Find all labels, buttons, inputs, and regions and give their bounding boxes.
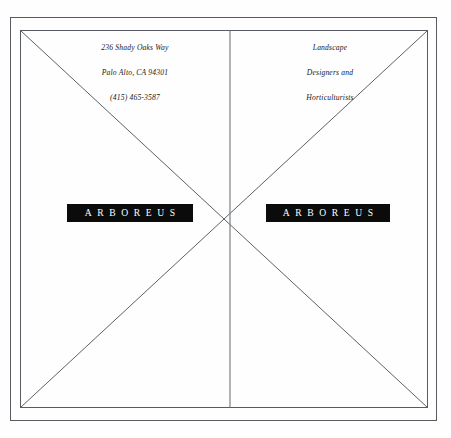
stationery-canvas: 236 Shady Oaks Way Palo Alto, CA 94301 (… xyxy=(0,0,451,438)
logo-wordmark-right: ARBOREUS xyxy=(266,204,390,222)
address-line-phone: (415) 465-3587 xyxy=(60,94,210,102)
services-line-3: Horticulturists xyxy=(262,94,398,102)
address-line-city: Palo Alto, CA 94301 xyxy=(60,69,210,77)
services-line-1: Landscape xyxy=(262,44,398,52)
services-line-2: Designers and xyxy=(262,69,398,77)
services-column: Landscape Designers and Horticulturists xyxy=(262,44,398,102)
address-column: 236 Shady Oaks Way Palo Alto, CA 94301 (… xyxy=(60,44,210,102)
logo-wordmark-left: ARBOREUS xyxy=(67,204,193,222)
address-line-street: 236 Shady Oaks Way xyxy=(60,44,210,52)
